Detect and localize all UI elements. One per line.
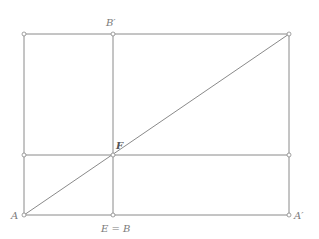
label-a-prime: A′ xyxy=(293,210,304,221)
point-a xyxy=(22,213,26,217)
point-mid-left xyxy=(22,153,26,157)
point-b-prime xyxy=(111,32,115,36)
point-a-prime xyxy=(287,213,291,217)
label-f: F xyxy=(115,140,124,151)
point-top-right xyxy=(287,32,291,36)
point-mid-right xyxy=(287,153,291,157)
segment-diagonal xyxy=(24,34,289,215)
point-f xyxy=(111,153,115,157)
geometry-diagram: B′ F A E = B A′ xyxy=(0,0,319,239)
point-e xyxy=(111,213,115,217)
point-top-left xyxy=(22,32,26,36)
label-a: A xyxy=(10,210,18,221)
label-e-equals-b: E = B xyxy=(100,223,130,234)
label-b-prime: B′ xyxy=(105,17,116,28)
